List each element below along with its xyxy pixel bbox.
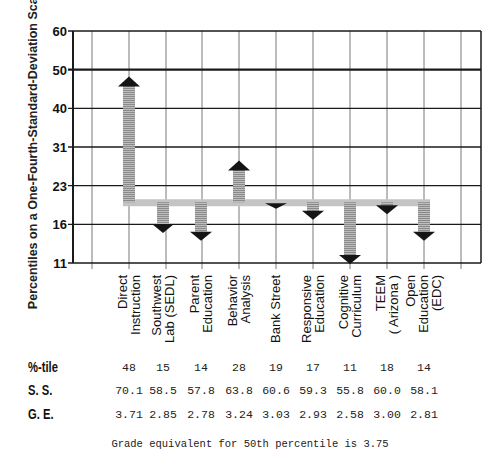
y-axis-ticks: 11162331405060 [53,24,67,271]
table-cell: 2.85 [143,408,183,421]
table-cell: 60.0 [367,384,407,397]
table-cell: 14 [181,361,221,374]
table-cell: 15 [143,361,183,374]
svg-text:50: 50 [53,63,67,78]
table-cell: 28 [219,361,259,374]
category-label: TEEM( Arizona ) [373,275,401,334]
table-cell: 63.8 [219,384,259,397]
category-label: Bank Street [268,275,283,343]
footnote: Grade equivalent for 50th percentile is … [0,438,500,450]
table-cell: 18 [367,361,407,374]
table-cell: 17 [293,361,333,374]
table-cell: 2.93 [293,408,333,421]
category-label: CognitiveCurriculum [336,275,364,338]
category-labels: DirectInstructionSouthwestLab (SEDL)Pare… [115,274,445,343]
table-cell: 58.5 [143,384,183,397]
row-label: S. S. [28,382,52,398]
category-label: SouthwestLab (SEDL) [149,275,177,343]
category-label: OpenEducation(EDC) [403,275,444,333]
svg-text:23: 23 [53,179,67,194]
table-cell: 11 [330,361,370,374]
deviation-arrows [118,76,435,264]
table-cell: 2.58 [330,408,370,421]
table-cell: 3.00 [367,408,407,421]
svg-text:11: 11 [53,256,67,271]
svg-text:40: 40 [53,101,67,116]
table-cell: 58.1 [404,384,444,397]
svg-text:( Arizona ): ( Arizona ) [386,275,401,334]
svg-text:Analysis: Analysis [238,275,253,324]
category-label: ResponsiveEducation [299,275,327,343]
category-label: ParentEducation [187,275,215,333]
svg-text:60: 60 [53,24,67,39]
svg-text:Education: Education [312,275,327,333]
y-axis-label: Percentiles on a One-Fourth-Standard-Dev… [26,0,40,309]
chart-plot: 11162331405060 Percentiles on a One-Four… [0,0,500,400]
table-cell: 2.81 [404,408,444,421]
row-label: %-tile [28,359,58,375]
table-cell: 14 [404,361,444,374]
table-cell: 2.78 [181,408,221,421]
svg-text:Bank Street: Bank Street [268,275,283,343]
row-label: G. E. [28,406,54,422]
svg-text:Lab (SEDL): Lab (SEDL) [162,275,177,343]
table-cell: 60.6 [256,384,296,397]
table-cell: 3.24 [219,408,259,421]
svg-text:Education: Education [200,275,215,333]
table-cell: 3.03 [256,408,296,421]
svg-text:16: 16 [53,217,67,232]
svg-text:(EDC): (EDC) [429,275,444,311]
svg-text:31: 31 [53,140,67,155]
table-cell: 19 [256,361,296,374]
svg-text:Curriculum: Curriculum [349,275,364,338]
svg-text:Instruction: Instruction [128,275,143,335]
category-label: DirectInstruction [115,275,143,335]
table-cell: 57.8 [181,384,221,397]
table-cell: 55.8 [330,384,370,397]
category-label: BehaviorAnalysis [225,274,253,326]
table-cell: 59.3 [293,384,333,397]
